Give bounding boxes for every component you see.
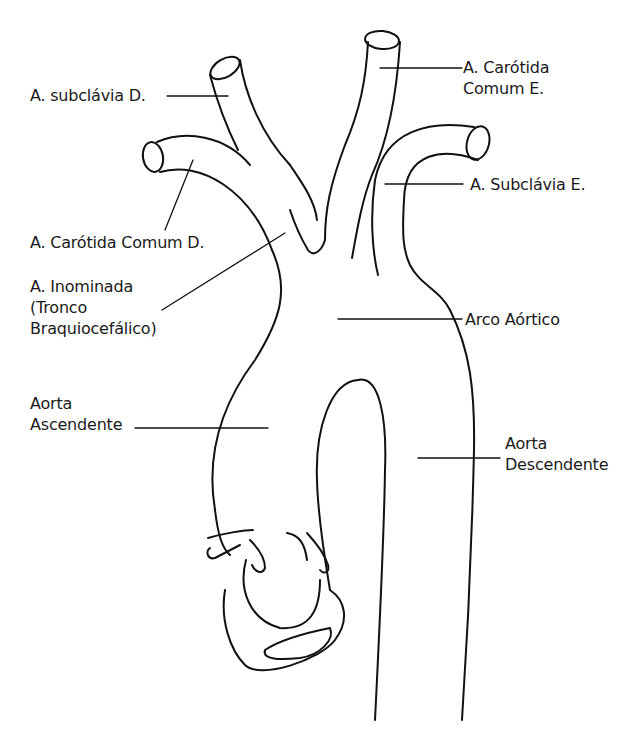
label-inominada: A. Inominada (Tronco Braquiocefálico) bbox=[30, 276, 157, 339]
label-text: Comum E. bbox=[463, 78, 549, 99]
left-common-carotid-artery bbox=[290, 30, 400, 258]
aorta-diagram bbox=[0, 0, 637, 736]
label-text: Descendente bbox=[505, 454, 608, 475]
label-text: A. Carótida Comum D. bbox=[30, 232, 204, 253]
label-text: A. Carótida bbox=[463, 57, 549, 78]
label-subclavia-d: A. subclávia D. bbox=[30, 85, 146, 106]
label-subclavia-e: A. Subclávia E. bbox=[470, 174, 585, 195]
aortic-valve bbox=[208, 510, 345, 670]
label-text: A. Inominada bbox=[30, 276, 157, 297]
label-text: (Tronco bbox=[30, 297, 157, 318]
right-subclavian-artery bbox=[207, 52, 290, 165]
label-arco-aortico: Arco Aórtico bbox=[465, 309, 560, 330]
descending-aorta bbox=[317, 310, 474, 720]
leader-lines bbox=[135, 68, 500, 458]
label-text: Aorta bbox=[505, 433, 608, 454]
ascending-aorta bbox=[212, 165, 317, 510]
label-aorta-descendente: Aorta Descendente bbox=[505, 433, 608, 475]
label-text: Aorta bbox=[30, 393, 122, 414]
left-subclavian-artery bbox=[372, 124, 493, 310]
label-carotida-comum-d: A. Carótida Comum D. bbox=[30, 232, 204, 253]
label-text: Arco Aórtico bbox=[465, 309, 560, 330]
label-text: Braquiocefálico) bbox=[30, 318, 157, 339]
label-text: Ascendente bbox=[30, 414, 122, 435]
label-carotida-comum-e: A. Carótida Comum E. bbox=[463, 57, 549, 99]
label-text: A. Subclávia E. bbox=[470, 174, 585, 195]
label-aorta-ascendente: Aorta Ascendente bbox=[30, 393, 122, 435]
label-text: A. subclávia D. bbox=[30, 85, 146, 106]
